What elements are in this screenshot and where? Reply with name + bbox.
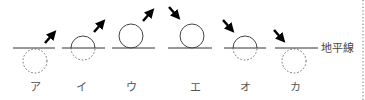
setting-arrow-icon — [223, 20, 231, 29]
sun-hidden-circle — [282, 49, 306, 73]
diagram-canvas: ア イ ウ エ オ — [0, 0, 365, 100]
sun-hidden-circle — [23, 49, 47, 73]
sun-lower-half-hidden — [71, 48, 95, 60]
panel-label: イ — [76, 81, 87, 94]
panel-label: ア — [30, 81, 41, 94]
setting-arrow-icon — [169, 7, 177, 16]
rising-arrow-icon — [45, 34, 53, 43]
panel-e: エ — [168, 7, 212, 94]
panel-label: オ — [240, 81, 251, 94]
rising-arrow-icon — [94, 23, 102, 32]
panel-u: ウ — [112, 12, 155, 94]
horizon-label: 地平線 — [321, 41, 354, 55]
panel-label: エ — [190, 81, 201, 94]
rising-arrow-icon — [143, 12, 151, 21]
sun-horizon-diagram: ア イ ウ エ オ — [0, 0, 365, 100]
panel-i: イ — [62, 23, 105, 94]
sun-upper-half — [71, 36, 95, 48]
sun-circle — [180, 24, 204, 48]
sun-circle — [119, 24, 143, 48]
panel-label: ウ — [126, 81, 137, 94]
panel-o: オ — [223, 20, 266, 94]
panel-ka: カ 地平線 — [274, 30, 354, 94]
panel-a: ア — [13, 34, 55, 94]
setting-arrow-icon — [274, 30, 282, 39]
sun-upper-half — [233, 36, 257, 48]
panel-label: カ — [290, 81, 301, 94]
sun-lower-half-hidden — [233, 48, 257, 60]
